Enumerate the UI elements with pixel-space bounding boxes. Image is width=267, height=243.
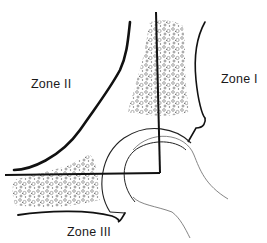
acetabulum-rim-connector (110, 212, 125, 213)
acetabular-rim-upper (188, 118, 205, 142)
zone-ii-label: Zone II (31, 77, 71, 91)
zone-i-label: Zone I (221, 72, 258, 86)
stippled-region-ischium (13, 155, 100, 207)
zone-iii-label: Zone III (67, 225, 111, 239)
acetabulum-inner-arc (124, 142, 186, 202)
femoral-neck-outline (133, 197, 190, 238)
zone-iii-boundary-curve (18, 211, 125, 222)
acetabulum-outer-arc (102, 129, 191, 212)
zone-ii-boundary-curve (14, 22, 130, 170)
zone-i-boundary-curve (195, 22, 205, 118)
horizontal-zone-divider (5, 173, 160, 175)
acetabular-zone-diagram (0, 0, 267, 243)
